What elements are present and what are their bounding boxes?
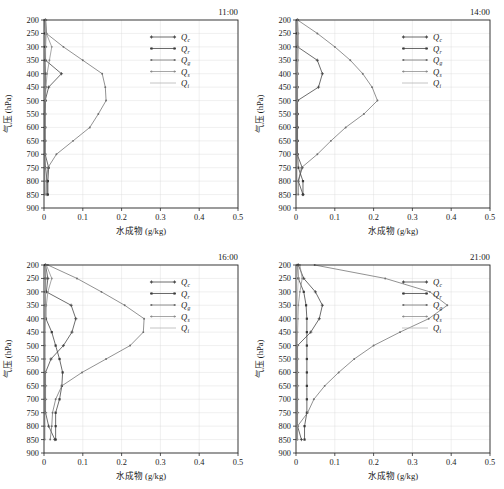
y-tick-label: 200 [27,261,39,270]
y-tick-label: 900 [279,204,291,213]
marker [300,167,302,169]
x-tick-label: 0.5 [485,213,495,222]
y-tick-label: 900 [27,204,39,213]
x-tick-label: 0.5 [233,458,243,467]
marker [313,398,315,400]
marker [129,345,131,347]
y-tick-label: 350 [27,56,39,65]
marker [353,358,355,360]
marker [334,46,336,48]
y-tick-label: 700 [279,150,291,159]
marker [142,331,144,333]
x-tick-label: 0.1 [330,458,340,467]
y-tick-label: 600 [279,368,291,377]
marker [89,126,91,128]
marker [338,371,340,373]
y-tick-label: 900 [279,449,291,458]
marker [45,86,47,88]
legend-label: Qs [181,67,190,78]
legend-label: Qc [181,32,191,43]
legend: QcQrQgQsQi [150,32,191,89]
legend: QcQrQgQsQi [402,32,443,89]
marker [297,46,299,48]
marker [55,412,57,414]
y-tick-label: 600 [27,123,39,132]
marker [316,32,318,34]
y-tick-label: 350 [279,301,291,310]
marker [306,318,308,320]
marker [305,304,307,306]
marker [81,371,83,373]
marker [55,425,57,427]
y-tick-label: 400 [27,315,39,324]
marker [49,439,51,441]
y-tick-label: 650 [279,382,291,391]
series-Qg [298,265,448,440]
chart-panel: 00.10.20.30.40.5200250300350400450500550… [0,0,252,244]
marker [299,291,301,293]
y-tick-label: 350 [279,56,291,65]
y-tick-label: 750 [279,409,291,418]
x-tick-label: 0.3 [155,458,165,467]
marker [428,318,430,320]
y-tick-label: 850 [279,191,291,200]
marker [377,100,379,102]
chart-panel: 00.10.20.30.40.5200250300350400450500550… [252,0,504,244]
x-tick-label: 0.3 [155,213,165,222]
x-tick-label: 0.5 [233,213,243,222]
y-tick-label: 800 [279,177,291,186]
marker [52,412,54,414]
panel-timestamp: 16:00 [218,252,239,262]
y-tick-label: 750 [27,409,39,418]
y-tick-label: 450 [27,328,39,337]
x-axis-title: 水成物 (g/kg) [368,470,418,481]
marker [58,358,60,360]
marker [303,438,305,440]
marker [55,398,57,400]
y-tick-label: 500 [27,97,39,106]
marker [124,304,126,306]
marker [306,398,308,400]
marker [55,344,57,346]
chart-panel: 00.10.20.30.40.5200250300350400450500550… [0,245,252,489]
x-tick-label: 0.4 [194,458,205,467]
y-tick-label: 550 [279,110,291,119]
y-tick-label: 450 [279,328,291,337]
marker [429,291,431,293]
series-group [44,263,145,441]
marker [302,180,304,182]
gridlines [44,265,238,453]
x-tick-label: 0.2 [116,458,126,467]
series-Qc [46,265,76,440]
legend-label: Qs [433,312,442,323]
x-tick-label: 0.2 [368,213,378,222]
y-tick-label: 900 [27,449,39,458]
x-tick-label: 0.5 [485,458,495,467]
marker [47,167,49,169]
y-tick-label: 350 [27,301,39,310]
gridlines [296,20,490,208]
y-tick-label: 850 [279,436,291,445]
marker [143,318,145,320]
marker [100,291,102,293]
x-tick-label: 0.1 [78,213,88,222]
series-group [296,263,448,441]
legend-label: Qr [433,289,443,300]
marker [399,331,401,333]
y-tick-label: 400 [279,315,291,324]
y-tick-label: 500 [279,97,291,106]
y-tick-label: 800 [27,177,39,186]
legend-label: Qg [433,55,443,66]
y-tick-label: 200 [279,261,291,270]
marker [384,277,386,279]
y-tick-label: 450 [279,83,291,92]
marker [61,385,63,387]
marker [363,113,365,115]
x-tick-label: 0 [294,213,298,222]
marker [306,371,308,373]
legend-label: Qc [433,277,443,288]
marker [51,277,53,279]
marker [51,331,53,333]
y-tick-label: 200 [279,16,291,25]
legend-label: Qr [181,289,191,300]
